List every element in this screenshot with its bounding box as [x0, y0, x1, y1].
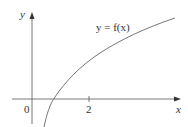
x-axis-arrow-icon [174, 97, 181, 102]
curve-f [44, 18, 175, 127]
x-axis-label: x [176, 104, 181, 115]
origin-label: 0 [24, 104, 30, 115]
y-axis-label: y [20, 9, 25, 20]
y-axis-arrow-icon [30, 12, 35, 19]
curve-label: y = f(x) [96, 22, 130, 33]
tick-label-2: 2 [86, 104, 92, 115]
